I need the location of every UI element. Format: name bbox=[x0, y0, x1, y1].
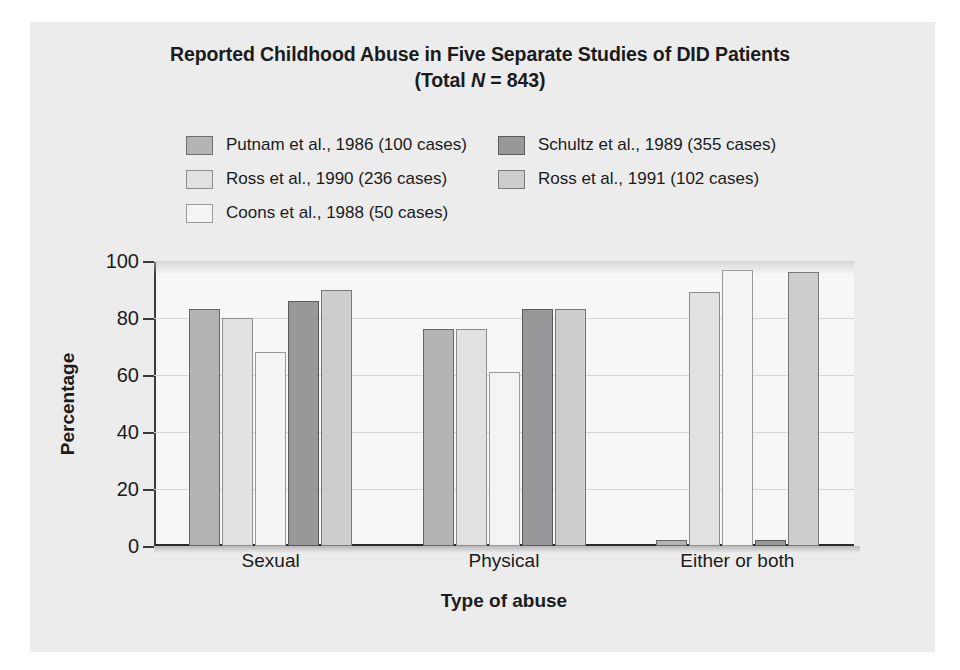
legend-row: Ross et al., 1990 (236 cases)Ross et al.… bbox=[186, 162, 826, 196]
y-tick-label: 80 bbox=[117, 307, 139, 330]
y-tick-label: 60 bbox=[117, 364, 139, 387]
legend-swatch-icon bbox=[186, 136, 213, 155]
bars-layer bbox=[154, 261, 854, 546]
y-axis-title: Percentage bbox=[57, 353, 79, 455]
chart-subtitle-italic-n: N bbox=[471, 69, 485, 91]
y-axis-tick bbox=[143, 546, 154, 548]
y-axis-tick bbox=[143, 318, 154, 320]
legend-row: Putnam et al., 1986 (100 cases)Schultz e… bbox=[186, 128, 826, 162]
y-tick-label: 100 bbox=[106, 250, 139, 273]
y-axis-tick bbox=[143, 375, 154, 377]
x-category-label: Sexual bbox=[154, 550, 387, 572]
plot-floor-shadow bbox=[154, 546, 860, 553]
y-tick-label: 0 bbox=[128, 535, 139, 558]
plot-area: 020406080100 SexualPhysicalEither or bot… bbox=[154, 261, 854, 546]
legend-label: Ross et al., 1991 (102 cases) bbox=[538, 169, 759, 189]
x-category-label: Physical bbox=[387, 550, 620, 572]
bar[interactable] bbox=[788, 272, 819, 546]
bar[interactable] bbox=[722, 270, 753, 546]
bar-group bbox=[154, 261, 854, 546]
x-axis-title: Type of abuse bbox=[154, 590, 854, 612]
legend-item[interactable]: Putnam et al., 1986 (100 cases) bbox=[186, 128, 498, 162]
figure-page: Reported Childhood Abuse in Five Separat… bbox=[0, 0, 960, 670]
legend-row: Coons et al., 1988 (50 cases) bbox=[186, 196, 826, 230]
y-axis-tick bbox=[143, 432, 154, 434]
chart-subtitle-suffix: = 843) bbox=[485, 69, 546, 91]
legend-item[interactable]: Ross et al., 1990 (236 cases) bbox=[186, 162, 498, 196]
chart-title: Reported Childhood Abuse in Five Separat… bbox=[60, 42, 900, 93]
legend-swatch-icon bbox=[186, 170, 213, 189]
legend-swatch-icon bbox=[498, 170, 525, 189]
chart-title-line1: Reported Childhood Abuse in Five Separat… bbox=[170, 43, 790, 65]
y-axis-tick bbox=[143, 489, 154, 491]
legend-swatch-icon bbox=[498, 136, 525, 155]
legend-item[interactable]: Coons et al., 1988 (50 cases) bbox=[186, 196, 498, 230]
y-tick-label: 20 bbox=[117, 478, 139, 501]
bar[interactable] bbox=[689, 292, 720, 546]
x-category-label: Either or both bbox=[621, 550, 854, 572]
y-tick-label: 40 bbox=[117, 421, 139, 444]
chart-legend: Putnam et al., 1986 (100 cases)Schultz e… bbox=[186, 128, 826, 230]
legend-item[interactable]: Schultz et al., 1989 (355 cases) bbox=[498, 128, 818, 162]
legend-label: Coons et al., 1988 (50 cases) bbox=[226, 203, 448, 223]
chart-subtitle-prefix: (Total bbox=[415, 69, 471, 91]
legend-label: Schultz et al., 1989 (355 cases) bbox=[538, 135, 776, 155]
y-axis-tick bbox=[143, 261, 154, 263]
legend-item[interactable]: Ross et al., 1991 (102 cases) bbox=[498, 162, 818, 196]
chart-title-line2: (Total N = 843) bbox=[60, 68, 900, 94]
legend-label: Putnam et al., 1986 (100 cases) bbox=[226, 135, 467, 155]
legend-label: Ross et al., 1990 (236 cases) bbox=[226, 169, 447, 189]
legend-swatch-icon bbox=[186, 204, 213, 223]
